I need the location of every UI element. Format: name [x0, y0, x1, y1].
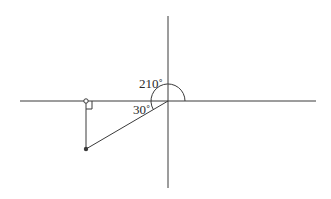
- filled-point: [84, 147, 88, 151]
- open-point: [84, 99, 88, 103]
- angle-label-210: 210˚: [139, 76, 163, 91]
- reference-angle-label-30: 30˚: [133, 102, 150, 117]
- terminal-side: [86, 101, 168, 149]
- reference-angle-diagram: 210˚ 30˚: [0, 0, 331, 199]
